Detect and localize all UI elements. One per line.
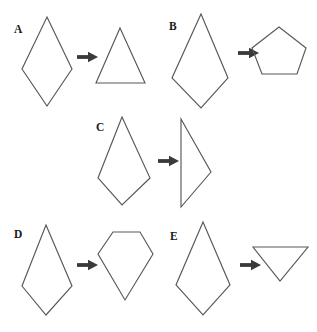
right-arrow-icon: [77, 52, 98, 62]
right-arrow-icon: [240, 260, 261, 270]
transformation-item-b: B: [169, 14, 306, 108]
arrow-head: [88, 52, 98, 62]
source-kite-shape: [172, 14, 228, 108]
result-triangle-shape: [96, 28, 145, 83]
right-arrow-icon: [158, 156, 179, 166]
transformation-item-d: D: [14, 225, 153, 315]
source-kite-shape: [98, 117, 150, 205]
arrow-head: [169, 156, 179, 166]
transformation-item-e: E: [170, 222, 308, 315]
arrow-head: [88, 260, 98, 270]
transformation-item-c: C: [96, 117, 211, 207]
transformation-item-a: A: [14, 17, 145, 106]
item-label-e: E: [170, 230, 178, 242]
arrow-head: [251, 260, 261, 270]
source-kite-shape: [22, 17, 72, 106]
item-label-c: C: [96, 121, 104, 133]
result-pentagon-shape: [98, 232, 153, 300]
result-narrow-kite-shape: [181, 119, 211, 207]
shape-transformation-diagram: ABCDE: [0, 0, 317, 332]
result-pentagon-shape: [252, 27, 306, 74]
right-arrow-icon: [77, 260, 98, 270]
result-inverted-triangle-shape: [253, 247, 308, 281]
item-label-b: B: [169, 20, 177, 32]
item-label-d: D: [14, 228, 22, 240]
source-kite-shape: [176, 222, 230, 315]
source-kite-shape: [22, 225, 72, 315]
item-label-a: A: [14, 23, 23, 35]
figure-canvas: ABCDE: [0, 0, 317, 332]
